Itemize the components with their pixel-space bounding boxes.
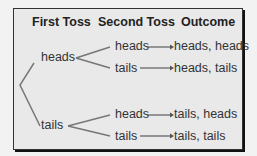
outcome-item: tails, tails xyxy=(174,129,225,143)
header-first-toss: First Toss xyxy=(32,15,91,29)
second-toss-item: tails xyxy=(115,129,137,143)
outcome-item: heads, heads xyxy=(174,39,249,53)
first-toss-heads: heads xyxy=(41,50,75,64)
second-toss-item: tails xyxy=(115,61,137,75)
outcome-item: tails, heads xyxy=(174,107,237,121)
second-toss-item: heads xyxy=(115,107,149,121)
first-toss-tails: tails xyxy=(41,118,63,132)
outcome-item: heads, tails xyxy=(174,61,237,75)
header-outcome: Outcome xyxy=(181,15,235,29)
header-second-toss: Second Toss xyxy=(98,15,175,29)
second-toss-item: heads xyxy=(115,39,149,53)
